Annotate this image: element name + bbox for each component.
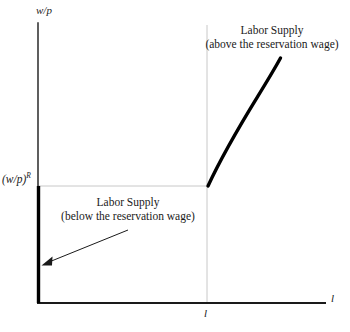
- reservation-wage-tick-label: (w/p)R: [2, 173, 31, 187]
- annotation-above-reservation-wage: Labor Supply (above the reservation wage…: [196, 24, 348, 51]
- y-axis-label: w/p: [36, 4, 52, 17]
- annotation-arrow-line: [49, 230, 128, 262]
- annotation-below-line2: (below the reservation wage): [42, 210, 214, 224]
- labor-supply-diagram: w/p l l (w/p)R Labor Supply (above the r…: [0, 0, 350, 332]
- annotation-arrow-head: [42, 257, 53, 266]
- labor-supply-upward-curve: [208, 58, 281, 186]
- annotation-above-line1: Labor Supply: [196, 24, 348, 38]
- reservation-wage-base: (w/p): [2, 173, 26, 185]
- annotation-below-reservation-wage: Labor Supply (below the reservation wage…: [42, 196, 214, 223]
- annotation-below-line1: Labor Supply: [42, 196, 214, 210]
- x-axis-label: l: [331, 292, 334, 305]
- x-axis-tick-label: l: [204, 307, 207, 320]
- reservation-wage-superscript: R: [26, 171, 31, 180]
- annotation-above-line2: (above the reservation wage): [196, 38, 348, 52]
